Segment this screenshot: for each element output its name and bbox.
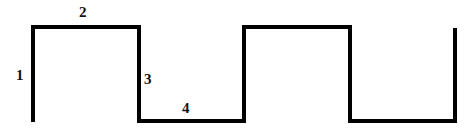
segment-label-3: 3 [144, 71, 152, 87]
segment-label-1: 1 [16, 67, 24, 83]
segment-label-2: 2 [79, 4, 87, 20]
square-wave-line [33, 27, 455, 122]
square-wave-diagram: 1 2 3 4 [0, 0, 476, 134]
segment-label-4: 4 [182, 100, 190, 116]
